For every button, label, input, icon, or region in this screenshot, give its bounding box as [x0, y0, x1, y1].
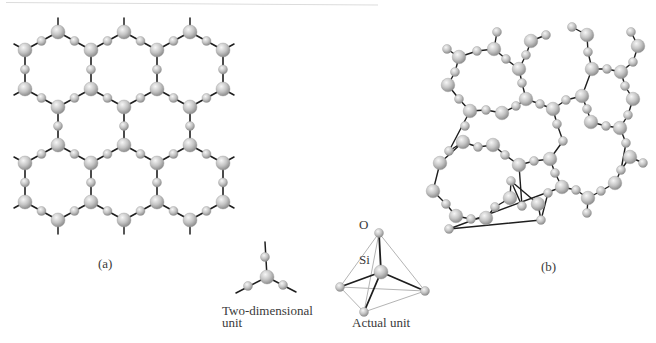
oxygen-atom-icon	[544, 189, 553, 198]
panel-b-label: (b)	[541, 260, 556, 273]
oxygen-atom-icon	[624, 111, 633, 120]
actual-unit-caption: Actual unit	[352, 317, 410, 329]
oxygen-atom-icon	[70, 94, 79, 103]
silicon-atom-icon	[486, 138, 500, 152]
silicon-atom-icon	[441, 78, 455, 92]
oxygen-label: O	[359, 218, 368, 231]
oxygen-atom-icon	[482, 106, 491, 115]
oxygen-atom-icon	[553, 120, 562, 129]
oxygen-atom-icon	[21, 178, 30, 187]
silicon-atom-icon	[452, 50, 466, 64]
oxygen-atom-icon	[70, 150, 79, 159]
tetrahedron-edge-line	[340, 287, 425, 291]
oxygen-atom-icon	[522, 51, 531, 60]
silicon-atom-icon	[18, 82, 32, 96]
silicon-atom-icon	[183, 138, 197, 152]
silicon-atom-icon	[623, 150, 637, 164]
oxygen-atom-icon	[501, 151, 510, 160]
silicon-atom-icon	[374, 265, 388, 279]
silica-network-diagram	[0, 0, 656, 343]
silicon-atom-icon	[84, 195, 98, 209]
tetrahedron-edge-line	[340, 287, 364, 312]
oxygen-atom-icon	[136, 37, 145, 46]
silicon-atom-icon	[183, 100, 197, 114]
oxygen-atom-icon	[202, 37, 211, 46]
oxygen-atom-icon	[474, 143, 483, 152]
oxygen-atom-icon	[627, 28, 636, 37]
silicon-atom-icon	[613, 121, 627, 135]
oxygen-atom-icon	[87, 65, 96, 74]
oxygen-atom-icon	[491, 203, 500, 212]
oxygen-atom-icon	[169, 150, 178, 159]
oxygen-atom-icon	[153, 178, 162, 187]
oxygen-atom-icon	[103, 207, 112, 216]
silicon-atom-icon	[531, 197, 545, 211]
oxygen-atom-icon	[583, 209, 592, 218]
silicon-atom-icon	[575, 89, 589, 103]
oxygen-atom-icon	[583, 105, 592, 114]
oxygen-atom-icon	[572, 186, 581, 195]
oxygen-atom-icon	[202, 207, 211, 216]
oxygen-atom-icon	[87, 178, 96, 187]
silicon-atom-icon	[18, 195, 32, 209]
silicon-atom-icon	[260, 270, 274, 284]
silicon-atom-icon	[117, 100, 131, 114]
silicon-atom-icon	[216, 82, 230, 96]
oxygen-atom-icon	[120, 122, 129, 131]
silicon-atom-icon	[584, 115, 598, 129]
oxygen-atom-icon	[336, 283, 345, 292]
oxygen-atom-icon	[70, 207, 79, 216]
oxygen-atom-icon	[530, 157, 539, 166]
oxygen-atom-icon	[21, 65, 30, 74]
oxygen-atom-icon	[279, 281, 288, 290]
silicon-atom-icon	[433, 156, 447, 170]
oxygen-atom-icon	[493, 28, 502, 37]
silicon-atom-icon	[495, 106, 509, 120]
silicon-atom-icon	[216, 195, 230, 209]
oxygen-atom-icon	[169, 94, 178, 103]
silicon-atom-icon	[150, 195, 164, 209]
silicon-atom-icon	[546, 102, 560, 116]
oxygen-atom-icon	[136, 94, 145, 103]
two-dimensional-unit-caption: Two-dimensional unit	[222, 305, 313, 329]
oxygen-atom-icon	[443, 45, 452, 54]
silicon-atom-icon	[614, 65, 628, 79]
silicon-atom-icon	[51, 213, 65, 227]
silicon-atom-icon	[18, 156, 32, 170]
silicon-atom-icon	[183, 213, 197, 227]
oxygen-atom-icon	[421, 287, 430, 296]
silicon-atom-icon	[524, 34, 538, 48]
silicon-atom-icon	[456, 135, 470, 149]
oxygen-atom-icon	[136, 150, 145, 159]
silicon-atom-icon	[216, 156, 230, 170]
oxygen-atom-icon	[103, 37, 112, 46]
oxygen-atom-icon	[639, 159, 648, 168]
oxygen-atom-icon	[54, 122, 63, 131]
oxygen-atom-icon	[261, 253, 270, 262]
oxygen-atom-icon	[136, 207, 145, 216]
oxygen-atom-icon	[537, 216, 546, 225]
oxygen-atom-icon	[597, 187, 606, 196]
oxygen-atom-icon	[507, 177, 516, 186]
silicon-atom-icon	[503, 191, 517, 205]
oxygen-atom-icon	[169, 207, 178, 216]
silicon-atom-icon	[449, 209, 463, 223]
oxygen-atom-icon	[562, 96, 571, 105]
silicon-atom-icon	[463, 104, 477, 118]
oxygen-atom-icon	[202, 94, 211, 103]
oxygen-atom-icon	[467, 215, 476, 224]
oxygen-atom-icon	[169, 37, 178, 46]
oxygen-atom-icon	[103, 94, 112, 103]
oxygen-atom-icon	[559, 137, 568, 146]
oxygen-atom-icon	[37, 94, 46, 103]
silicon-atom-icon	[512, 158, 526, 172]
two-dimensional-caption-line2: unit	[222, 317, 313, 329]
oxygen-atom-icon	[153, 65, 162, 74]
silicon-atom-icon	[117, 25, 131, 39]
oxygen-atom-icon	[455, 95, 464, 104]
silicon-atom-icon	[51, 25, 65, 39]
silicon-atom-icon	[117, 213, 131, 227]
silicon-atom-icon	[580, 28, 594, 42]
oxygen-atom-icon	[603, 65, 612, 74]
silicon-atom-icon	[117, 138, 131, 152]
